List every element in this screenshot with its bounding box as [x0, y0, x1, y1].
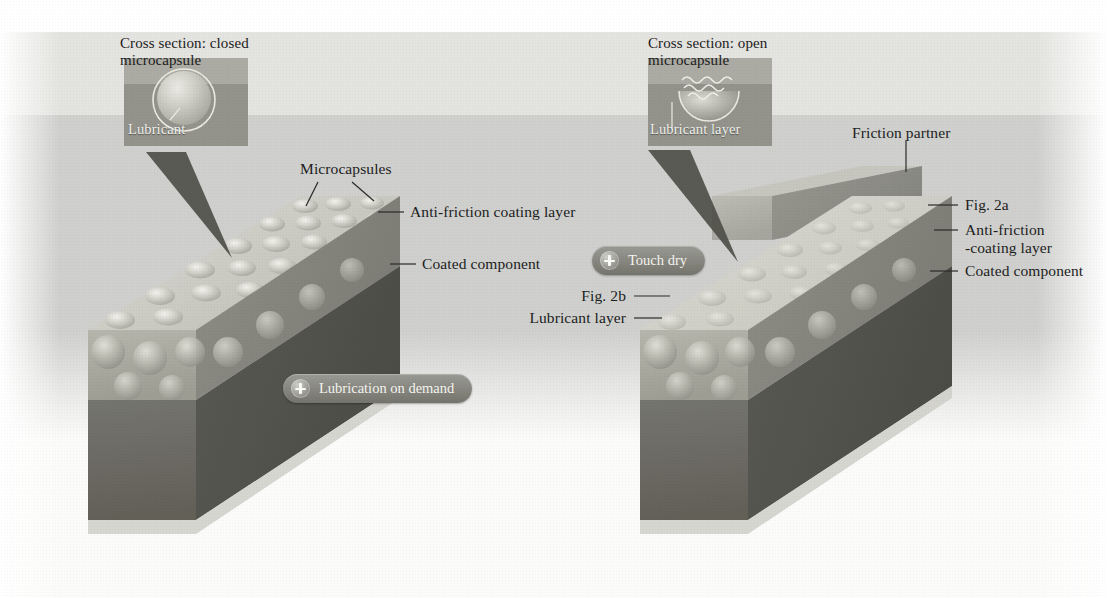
plus-circle-icon [291, 379, 310, 398]
pill-lubrication-on-demand[interactable]: Lubrication on demand [283, 374, 472, 403]
label-microcapsules: Microcapsules [300, 160, 392, 178]
label-lubricant-layer: Lubricant layer [466, 309, 626, 327]
left-callout-cone [146, 152, 232, 258]
left-callout-title-line2: microcapsule [120, 51, 201, 69]
label-anti-friction-coating-layer-left: Anti-friction coating layer [410, 203, 575, 221]
label-coated-component-right: Coated component [965, 262, 1083, 280]
left-callout-inner-label: Lubricant [128, 121, 185, 138]
right-callout-inner-label: Lubricant layer [650, 121, 740, 138]
pill-lubrication-on-demand-label: Lubrication on demand [319, 380, 454, 397]
plus-circle-icon [600, 251, 619, 270]
left-substrate-front [88, 400, 196, 520]
right-block [640, 166, 952, 534]
pill-touch-dry-label: Touch dry [628, 252, 687, 269]
label-anti-friction-coating-layer-right-line2: -coating layer [965, 239, 1052, 257]
label-fig-2b: Fig. 2b [480, 287, 626, 305]
right-callout-title-line1: Cross section: open [648, 34, 767, 52]
pill-touch-dry[interactable]: Touch dry [592, 246, 705, 275]
label-coated-component-left: Coated component [422, 255, 540, 273]
left-block [88, 196, 400, 534]
left-callout-title-line1: Cross section: closed [120, 34, 249, 52]
label-friction-partner: Friction partner [852, 124, 950, 142]
right-substrate-front [640, 400, 748, 520]
label-fig-2a: Fig. 2a [965, 196, 1009, 214]
label-anti-friction-coating-layer-right-line1: Anti-friction [965, 221, 1045, 239]
figure-canvas: Cross section: closed microcapsule Lubri… [0, 0, 1107, 598]
right-callout-title-line2: microcapsule [648, 51, 729, 69]
